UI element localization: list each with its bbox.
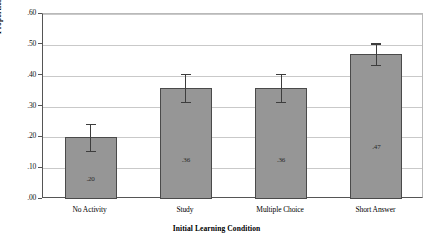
bar-value-label: .47 [350,144,402,151]
bar [255,88,307,199]
error-bar-cap-lower [276,102,286,103]
gridline [43,14,422,15]
y-axis-title: Proportion Correct [0,0,3,62]
error-bar-cap-upper [86,124,96,125]
x-axis-title: Initial Learning Condition [0,224,433,233]
y-axis-tick-label: .40 [6,71,36,79]
plot-area: .20.36.36.47 [42,13,423,198]
error-bar-cap-upper [181,74,191,75]
error-bar-cap-lower [181,102,191,103]
x-axis-tick-label: Short Answer [315,206,433,214]
gridline [43,45,422,46]
error-bar [90,124,91,152]
error-bar-cap-lower [371,65,381,66]
error-bar-cap-upper [276,74,286,75]
bar-value-label: .36 [160,157,212,164]
y-axis-tick-label: .10 [6,163,36,171]
error-bar [185,74,186,102]
bar-value-label: .36 [255,157,307,164]
chart-figure: Proportion Correct .60.50.40.30.20.10.00… [0,0,433,242]
error-bar-cap-lower [86,151,96,152]
error-bar [281,74,282,102]
error-bar-cap-upper [371,43,381,44]
y-axis-tick-label: .00 [6,194,36,202]
y-axis-tick-label: .50 [6,40,36,48]
y-axis-tick-label: .20 [6,132,36,140]
y-axis-tick-label: .60 [6,9,36,17]
error-bar [376,43,377,65]
y-axis-tick-label: .30 [6,102,36,110]
bar [160,88,212,199]
bar [350,54,402,199]
bar-value-label: .20 [65,176,117,183]
